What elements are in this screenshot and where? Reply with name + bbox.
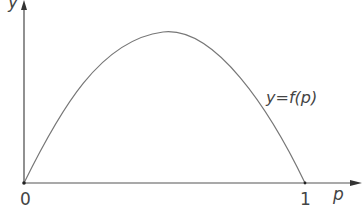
y-axis-arrow-icon (21, 0, 27, 10)
y-axis-label: y (7, 0, 19, 12)
x-axis-arrow-icon (350, 180, 362, 186)
origin-point (22, 181, 26, 185)
origin-label: 0 (20, 189, 31, 209)
function-plot: y 0 1 p y=f(p) (0, 0, 363, 218)
x-axis-label: p (332, 184, 344, 204)
x-tick-label-1: 1 (300, 189, 311, 209)
curve-f-of-p (24, 32, 305, 183)
curve-label: y=f(p) (265, 88, 317, 107)
p-one-point (304, 182, 307, 185)
